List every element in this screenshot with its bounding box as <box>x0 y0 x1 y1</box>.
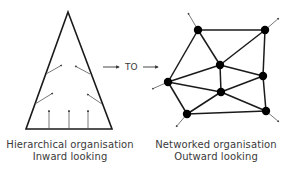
network-node <box>217 88 225 96</box>
hierarchy-caption: Hierarchical organisation Inward looking <box>0 139 140 163</box>
network-node <box>194 26 202 34</box>
network-node <box>216 61 224 69</box>
network-edge <box>168 82 221 92</box>
network-node <box>259 72 267 80</box>
network-graph <box>152 13 279 127</box>
transition-to-label: TO <box>125 62 138 72</box>
hierarchy-triangle-group <box>26 12 112 129</box>
inward-arrow-icon <box>75 66 90 74</box>
network-edge <box>187 92 221 114</box>
network-edge <box>263 76 266 111</box>
network-edge <box>263 30 265 76</box>
network-edge <box>168 82 187 114</box>
network-node <box>262 107 270 115</box>
hierarchy-caption-line1: Hierarchical organisation <box>0 139 140 151</box>
network-edge <box>220 65 263 76</box>
network-edge <box>198 30 220 65</box>
network-node <box>164 78 172 86</box>
hierarchy-caption-line2: Inward looking <box>0 151 140 163</box>
network-edges <box>168 30 266 114</box>
network-node <box>183 110 191 118</box>
network-edge <box>221 92 266 111</box>
network-caption: Networked organisation Outward looking <box>148 139 284 163</box>
network-nodes <box>164 26 270 118</box>
network-edge <box>221 76 263 92</box>
network-caption-line2: Outward looking <box>148 151 284 163</box>
network-edge <box>220 30 265 65</box>
network-edge <box>187 111 266 114</box>
network-caption-line1: Networked organisation <box>148 139 284 151</box>
network-node <box>261 26 269 34</box>
